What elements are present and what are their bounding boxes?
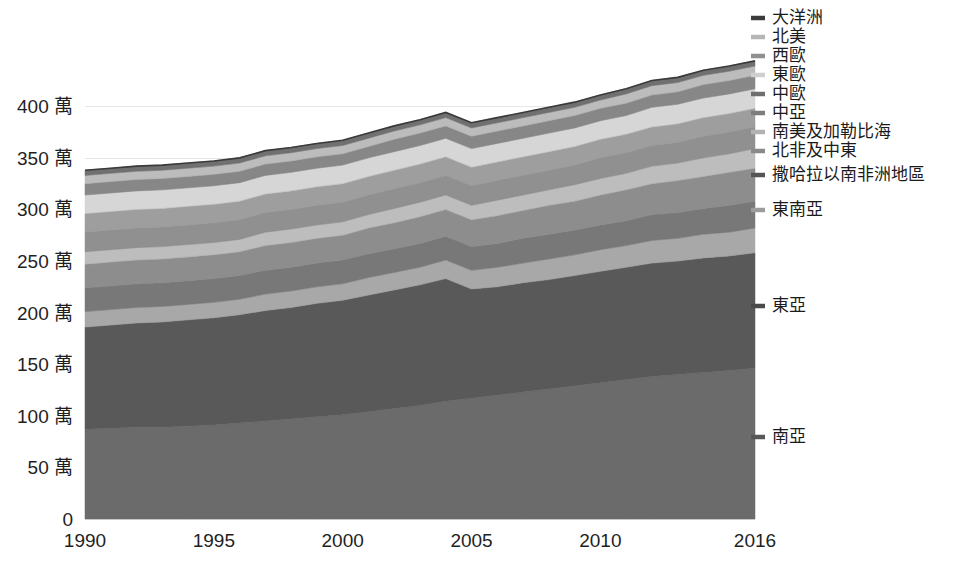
chart-container: 050 萬100 萬150 萬200 萬250 萬300 萬350 萬400 萬… (0, 0, 960, 579)
y-tick-label: 0 (62, 509, 73, 530)
x-tick-label: 2005 (450, 530, 492, 551)
y-tick-label: 200 萬 (17, 303, 73, 324)
legend-item-南美及加勒比海[interactable]: 南美及加勒比海 (751, 122, 891, 141)
stacked-area-chart: 050 萬100 萬150 萬200 萬250 萬300 萬350 萬400 萬… (0, 0, 960, 579)
legend-item-label: 西歐 (772, 46, 806, 65)
legend-item-label: 中歐 (772, 84, 806, 103)
x-tick-label: 2000 (322, 530, 364, 551)
x-tick-label: 2010 (579, 530, 621, 551)
y-tick-label: 300 萬 (17, 199, 73, 220)
y-tick-label: 400 萬 (17, 96, 73, 117)
y-tick-label: 150 萬 (17, 354, 73, 375)
legend-item-label: 中亞 (772, 103, 806, 122)
y-tick-label: 100 萬 (17, 406, 73, 427)
y-tick-label: 350 萬 (17, 148, 73, 169)
legend-item-label: 南亞 (772, 427, 806, 446)
legend-item-label: 北非及中東 (772, 141, 857, 160)
y-tick-label: 50 萬 (28, 457, 73, 478)
legend-item-label: 大洋洲 (772, 8, 823, 27)
x-tick-label: 2016 (734, 530, 776, 551)
legend-item-撒哈拉以南非洲地區[interactable]: 撒哈拉以南非洲地區 (751, 165, 925, 184)
legend-item-label: 撒哈拉以南非洲地區 (772, 165, 925, 184)
x-tick-label: 1995 (193, 530, 235, 551)
legend-item-label: 北美 (772, 27, 806, 46)
y-tick-label: 250 萬 (17, 251, 73, 272)
legend-item-label: 東南亞 (772, 200, 823, 219)
x-tick-label: 1990 (64, 530, 106, 551)
legend-item-label: 東亞 (772, 296, 806, 315)
legend-item-label: 東歐 (772, 65, 806, 84)
legend-item-label: 南美及加勒比海 (772, 122, 891, 141)
